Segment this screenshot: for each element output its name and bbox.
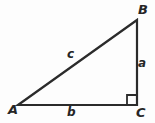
side-label-c: c: [67, 48, 74, 60]
side-label-b: b: [67, 106, 76, 118]
right-angle-marker: [127, 95, 137, 105]
vertex-label-a: A: [8, 103, 18, 116]
vertex-label-b: B: [138, 3, 148, 16]
side-label-a: a: [138, 57, 146, 69]
triangle-graphic: [0, 0, 155, 123]
triangle-shape: [18, 20, 137, 105]
right-triangle-diagram: A B C a b c: [0, 0, 155, 123]
vertex-label-c: C: [136, 106, 146, 119]
